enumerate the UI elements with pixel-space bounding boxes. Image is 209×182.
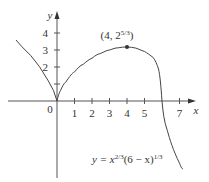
y-axis-label: y [47, 9, 53, 21]
origin-label: 0 [47, 103, 53, 115]
y-tick-label: 4 [43, 27, 49, 39]
maximum-point-label: (4, 25/3) [101, 29, 134, 42]
y-tick-label: 2 [43, 61, 49, 73]
x-axis-arrow-icon [188, 99, 196, 104]
y-tick-label: 3 [43, 44, 49, 56]
x-tick-label: 3 [107, 107, 113, 119]
function-graph: 1 2 3 4 5 7 0 2 3 4 x y (4, 25/3) y = x2… [0, 0, 209, 182]
x-tick-label: 1 [72, 107, 78, 119]
maximum-point-marker [125, 45, 129, 49]
x-tick-label: 4 [124, 107, 130, 119]
x-axis-label: x [193, 104, 199, 116]
curve-left-branch [16, 40, 57, 101]
y-axis-arrow-icon [55, 11, 60, 19]
x-tick-label: 5 [142, 107, 148, 119]
x-tick-label: 7 [177, 107, 183, 119]
equation-label: y = x2/3(6 − x)1/3 [91, 153, 163, 166]
x-tick-label: 2 [89, 107, 95, 119]
